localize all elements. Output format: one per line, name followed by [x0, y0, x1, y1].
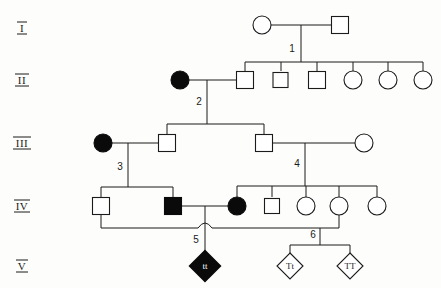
square-symbol-unaffected[interactable]	[265, 199, 280, 214]
generation-label-II: II	[18, 74, 26, 86]
circle-symbol-unaffected[interactable]	[344, 71, 362, 89]
sibship-label-4: 4	[294, 158, 300, 169]
individual-III-4[interactable]	[355, 134, 373, 152]
generation-label-V: V	[18, 260, 26, 272]
generation-label-I: I	[20, 22, 24, 34]
individual-III-3[interactable]	[256, 135, 273, 152]
genotype-label-V-1: tt	[202, 261, 208, 271]
circle-symbol-unaffected[interactable]	[379, 71, 397, 89]
individual-II-6[interactable]	[379, 71, 397, 89]
generation-label-IV: IV	[16, 200, 29, 212]
individual-II-1[interactable]	[171, 71, 189, 89]
pedigree-chart: I II III IV V 1 2 3 4 5 6	[0, 0, 441, 288]
individual-IV-2[interactable]	[165, 198, 182, 215]
generation-label-III: III	[16, 137, 29, 149]
individual-IV-1[interactable]	[93, 198, 110, 215]
square-symbol-unaffected[interactable]	[273, 73, 288, 88]
genotype-label-V-3: TT	[345, 261, 356, 271]
pedigree-diagram: I II III IV V 1 2 3 4 5 6	[0, 0, 441, 288]
circle-symbol-unaffected[interactable]	[253, 16, 271, 34]
square-symbol-unaffected[interactable]	[332, 17, 349, 34]
individual-II-4[interactable]	[309, 72, 326, 89]
circle-symbol-unaffected[interactable]	[414, 71, 432, 89]
individual-IV-4[interactable]	[265, 199, 280, 214]
individual-I-1[interactable]	[253, 16, 271, 34]
individual-I-2[interactable]	[332, 17, 349, 34]
individual-IV-6[interactable]	[330, 197, 348, 215]
individual-IV-5[interactable]	[297, 197, 315, 215]
circle-symbol-affected[interactable]	[94, 134, 112, 152]
individual-V-1[interactable]: tt	[192, 253, 218, 279]
sibship-label-1: 1	[289, 43, 295, 54]
circle-symbol-unaffected[interactable]	[368, 197, 386, 215]
sibship-label-6: 6	[310, 229, 316, 240]
individual-IV-3[interactable]	[228, 197, 246, 215]
individual-II-7[interactable]	[414, 71, 432, 89]
circle-symbol-unaffected[interactable]	[355, 134, 373, 152]
circle-symbol-affected[interactable]	[228, 197, 246, 215]
square-symbol-unaffected[interactable]	[237, 72, 254, 89]
individual-II-5[interactable]	[344, 71, 362, 89]
circle-symbol-unaffected[interactable]	[297, 197, 315, 215]
individual-II-3[interactable]	[273, 73, 288, 88]
square-symbol-unaffected[interactable]	[309, 72, 326, 89]
sibship-label-2: 2	[196, 96, 202, 107]
genotype-label-V-2: Tt	[286, 261, 294, 271]
individual-V-2[interactable]: Tt	[277, 253, 303, 279]
square-symbol-unaffected[interactable]	[93, 198, 110, 215]
generation-labels: I II III IV V	[13, 22, 31, 272]
circle-symbol-affected[interactable]	[171, 71, 189, 89]
individual-III-1[interactable]	[94, 134, 112, 152]
individual-IV-7[interactable]	[368, 197, 386, 215]
sibship-label-3: 3	[117, 161, 123, 172]
sibship-label-5: 5	[193, 234, 199, 245]
square-symbol-unaffected[interactable]	[256, 135, 273, 152]
square-symbol-unaffected[interactable]	[159, 135, 176, 152]
individual-II-2[interactable]	[237, 72, 254, 89]
circle-symbol-unaffected[interactable]	[330, 197, 348, 215]
individual-III-2[interactable]	[159, 135, 176, 152]
square-symbol-affected[interactable]	[165, 198, 182, 215]
individual-V-3[interactable]: TT	[337, 253, 363, 279]
